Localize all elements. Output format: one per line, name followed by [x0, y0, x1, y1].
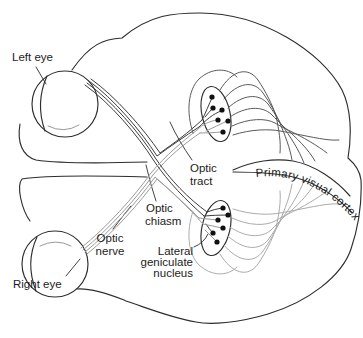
lgn-dot — [220, 129, 225, 134]
optic-nerve-label: nerve — [96, 245, 125, 257]
optic-chiasm-label: chiasm — [145, 215, 181, 227]
lgn-dot — [225, 212, 230, 217]
fiber-terminal — [203, 224, 222, 228]
optic-tract-label: tract — [190, 175, 213, 187]
fiber-terminal — [200, 132, 222, 133]
fiber-terminal — [199, 218, 217, 220]
lgn-dot — [209, 94, 214, 99]
radiation-line — [230, 183, 315, 236]
fiber-terminal — [204, 215, 227, 216]
radiation-loop — [189, 70, 237, 133]
radiation-line — [224, 184, 292, 259]
lgn-dot — [210, 105, 215, 110]
optic-chiasm-label: Optic — [146, 202, 173, 214]
radiation-line — [230, 108, 315, 161]
lgn-right-outline — [196, 198, 236, 259]
optic-radiation-lower — [189, 181, 339, 274]
lgn-dot — [225, 118, 230, 123]
lgn-dot — [215, 117, 220, 122]
labels-group: Left eye Right eye Optic nerve Optic chi… — [12, 51, 363, 290]
lgn-dot — [215, 217, 220, 222]
radiation-line — [220, 72, 280, 153]
left-eye — [32, 71, 98, 137]
lgn-dot — [220, 225, 225, 230]
fiber — [81, 130, 197, 248]
radiation-line — [224, 85, 292, 160]
midline-wall-upper — [19, 124, 147, 163]
fiber — [91, 79, 202, 153]
right-eye-inner-arc — [40, 242, 71, 246]
lgn-dot — [220, 205, 225, 210]
lgn-dot — [214, 239, 219, 244]
visual-pathway-diagram: Left eye Right eye Optic nerve Optic chi… — [0, 0, 363, 338]
right-eye-label: Right eye — [13, 278, 62, 290]
optic-nerve-label: Optic — [97, 232, 124, 244]
optic-tract-label: Optic — [190, 162, 217, 174]
right-eye-leader — [66, 259, 80, 276]
lgn-dot — [219, 107, 224, 112]
lgn-label: nucleus — [153, 267, 193, 279]
radiation-loop — [189, 211, 237, 274]
left-eye-inner-arc — [48, 125, 79, 130]
lgn-dot — [210, 230, 215, 235]
left-eye-label: Left eye — [12, 51, 53, 63]
